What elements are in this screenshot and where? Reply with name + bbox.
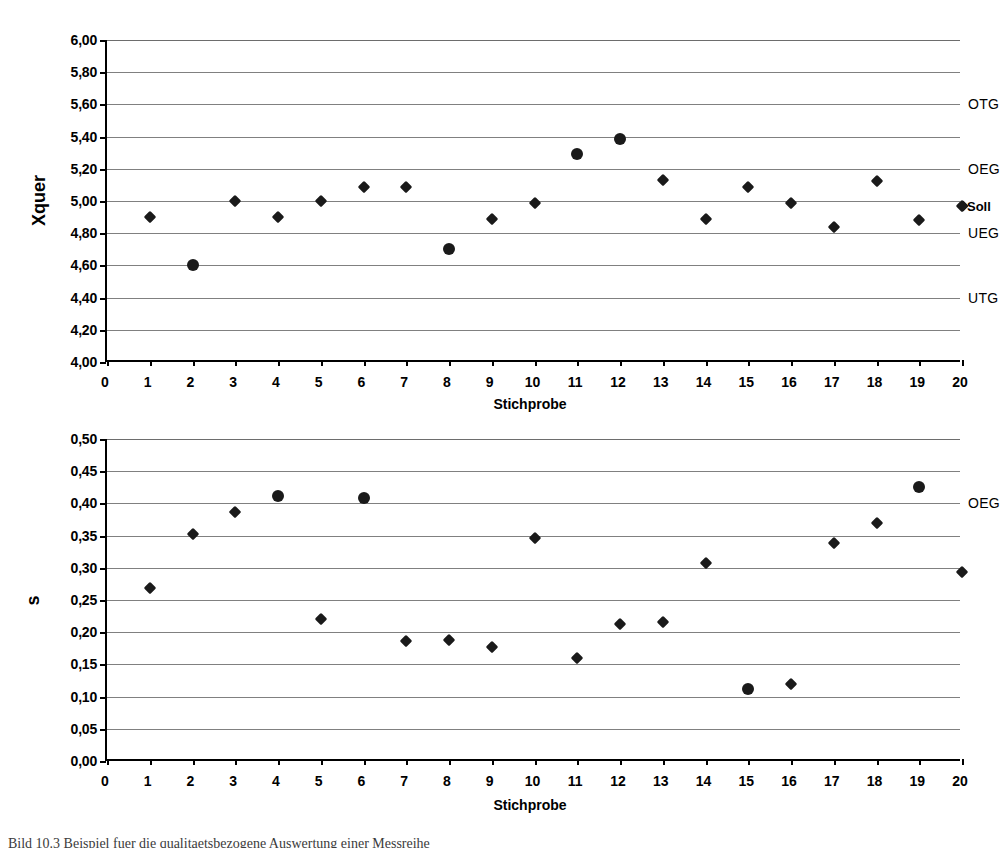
x-axis-tick	[321, 759, 323, 765]
x-axis-tick-label: 5	[315, 374, 323, 390]
x-axis-tick-label: 9	[486, 773, 494, 789]
x-axis-tick-label: 12	[610, 773, 626, 789]
y-axis-tick	[100, 40, 106, 42]
s-control-chart: s Stichprobe 0,000,050,100,150,200,250,3…	[0, 422, 1004, 844]
y-axis-tick	[100, 362, 106, 364]
gridline	[107, 664, 960, 665]
y-axis-tick-label: 0,35	[71, 528, 97, 544]
data-point	[742, 181, 755, 194]
x-axis-tick-label: 9	[486, 374, 494, 390]
data-point	[186, 527, 199, 540]
y-axis-tick	[100, 137, 106, 139]
gridline	[107, 568, 960, 569]
x-axis-tick-label: 15	[738, 374, 754, 390]
x-axis-tick	[962, 759, 964, 765]
data-point	[827, 536, 840, 549]
limit-line-label-utg: UTG	[968, 290, 998, 306]
x-axis-tick	[877, 759, 879, 765]
y-axis-tick	[100, 503, 106, 505]
x-axis-tick-label: 1	[144, 374, 152, 390]
y-axis-tick-label: 0,10	[71, 689, 97, 705]
data-point	[614, 617, 627, 630]
gridline	[107, 265, 960, 266]
gridline	[107, 137, 960, 138]
y-axis-tick-label: 0,20	[71, 624, 97, 640]
x-axis-tick	[150, 360, 152, 366]
x-axis-tick	[706, 360, 708, 366]
y-axis-tick-label: 4,40	[71, 290, 97, 306]
x-axis-tick-label: 19	[909, 374, 925, 390]
data-point	[143, 211, 156, 224]
data-point	[314, 613, 327, 626]
x-axis-tick	[535, 759, 537, 765]
y-axis-tick-label: 0,50	[71, 431, 97, 447]
data-point	[571, 148, 583, 160]
x-axis-tick-label: 4	[272, 374, 280, 390]
y-axis-tick	[100, 201, 106, 203]
y-axis-tick	[100, 233, 106, 235]
x-axis-tick	[107, 759, 109, 765]
data-point	[358, 492, 370, 504]
x-axis-tick	[193, 759, 195, 765]
data-point	[143, 582, 156, 595]
x-axis-tick	[620, 759, 622, 765]
data-point	[571, 652, 584, 665]
x-axis-tick	[577, 759, 579, 765]
gridline	[107, 471, 960, 472]
y-axis-tick-label: 0,00	[71, 753, 97, 769]
x-axis-tick-label: 7	[400, 773, 408, 789]
x-axis-tick-label: 0	[101, 773, 109, 789]
data-point	[699, 212, 712, 225]
x-axis-tick	[150, 759, 152, 765]
data-point	[913, 213, 926, 226]
figure-caption: Bild 10.3 Beispiel fuer die qualitaetsbe…	[8, 836, 430, 848]
gridline	[107, 729, 960, 730]
y-axis-tick	[100, 471, 106, 473]
x-axis-tick-label: 6	[358, 374, 366, 390]
x-axis-tick-label: 2	[187, 773, 195, 789]
limit-line-label-ueg: UEG	[968, 225, 999, 241]
x-axis-tick-label: 14	[696, 374, 712, 390]
x-axis-tick	[449, 360, 451, 366]
y-axis-tick	[100, 439, 106, 441]
x-axis-tick-label: 0	[101, 374, 109, 390]
y-axis-tick-label: 4,00	[71, 354, 97, 370]
x-axis-tick	[663, 759, 665, 765]
data-point	[913, 481, 925, 493]
x-axis-tick-label: 11	[568, 773, 583, 789]
x-axis-tick-label: 5	[315, 773, 323, 789]
x-axis-tick-label: 2	[187, 374, 195, 390]
gridline	[107, 169, 960, 170]
data-point	[870, 175, 883, 188]
gridline	[107, 104, 960, 105]
x-axis-tick-label: 8	[443, 773, 451, 789]
gridline	[107, 72, 960, 73]
data-point	[229, 195, 242, 208]
data-point	[742, 683, 754, 695]
data-point	[400, 180, 413, 193]
x-axis-tick	[535, 360, 537, 366]
x-axis-tick	[748, 360, 750, 366]
data-point	[827, 220, 840, 233]
y-axis-tick	[100, 104, 106, 106]
x-axis-title-s: Stichprobe	[493, 797, 566, 813]
x-axis-tick-label: 11	[568, 374, 583, 390]
x-axis-tick	[278, 360, 280, 366]
y-axis-tick-label: 5,00	[71, 193, 97, 209]
y-axis-tick-label: 5,40	[71, 129, 97, 145]
x-axis-tick	[406, 759, 408, 765]
x-axis-tick-label: 8	[443, 374, 451, 390]
x-axis-tick	[492, 360, 494, 366]
x-axis-tick	[235, 360, 237, 366]
x-axis-tick	[620, 360, 622, 366]
x-axis-tick-label: 15	[738, 773, 754, 789]
x-axis-tick-label: 14	[696, 773, 712, 789]
y-axis-tick-label: 0,45	[71, 463, 97, 479]
limit-line-label-oeg: OEG	[968, 161, 1000, 177]
x-axis-tick-label: 17	[824, 374, 840, 390]
data-point	[357, 180, 370, 193]
xquer-control-chart: Xquer Stichprobe 4,004,204,404,604,805,0…	[0, 0, 1004, 422]
x-axis-tick-label: 4	[272, 773, 280, 789]
data-point	[785, 677, 798, 690]
